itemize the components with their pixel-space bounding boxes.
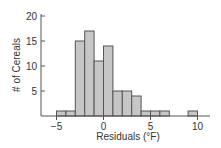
y-axis-ticks: 5101520 xyxy=(26,11,45,97)
histogram-bar xyxy=(141,111,150,116)
histogram-bar xyxy=(188,111,197,116)
y-tick-label: 20 xyxy=(26,11,38,22)
y-tick-label: 15 xyxy=(26,36,38,47)
x-tick-label: 10 xyxy=(192,121,204,132)
histogram-bar xyxy=(104,46,113,116)
residuals-histogram: 5101520 −50510 Residuals (°F) # of Cerea… xyxy=(0,0,221,148)
histogram-svg: 5101520 −50510 Residuals (°F) # of Cerea… xyxy=(0,0,221,148)
histogram-bar xyxy=(85,31,94,116)
histogram-bar xyxy=(151,111,160,116)
histogram-bar xyxy=(113,91,122,116)
histogram-bar xyxy=(122,91,131,116)
histogram-bar xyxy=(75,41,84,116)
histogram-bar xyxy=(94,61,103,116)
y-tick-label: 10 xyxy=(26,61,38,72)
histogram-bars xyxy=(57,31,198,116)
histogram-bar xyxy=(66,111,75,116)
y-tick-label: 5 xyxy=(31,86,37,97)
x-tick-label: −5 xyxy=(51,121,63,132)
histogram-bar xyxy=(57,111,66,116)
y-axis-label: # of Cereals xyxy=(11,38,22,92)
x-axis-ticks: −50510 xyxy=(51,116,204,132)
histogram-bar xyxy=(132,96,141,116)
histogram-bar xyxy=(160,111,169,116)
x-axis-label: Residuals (°F) xyxy=(96,131,159,142)
